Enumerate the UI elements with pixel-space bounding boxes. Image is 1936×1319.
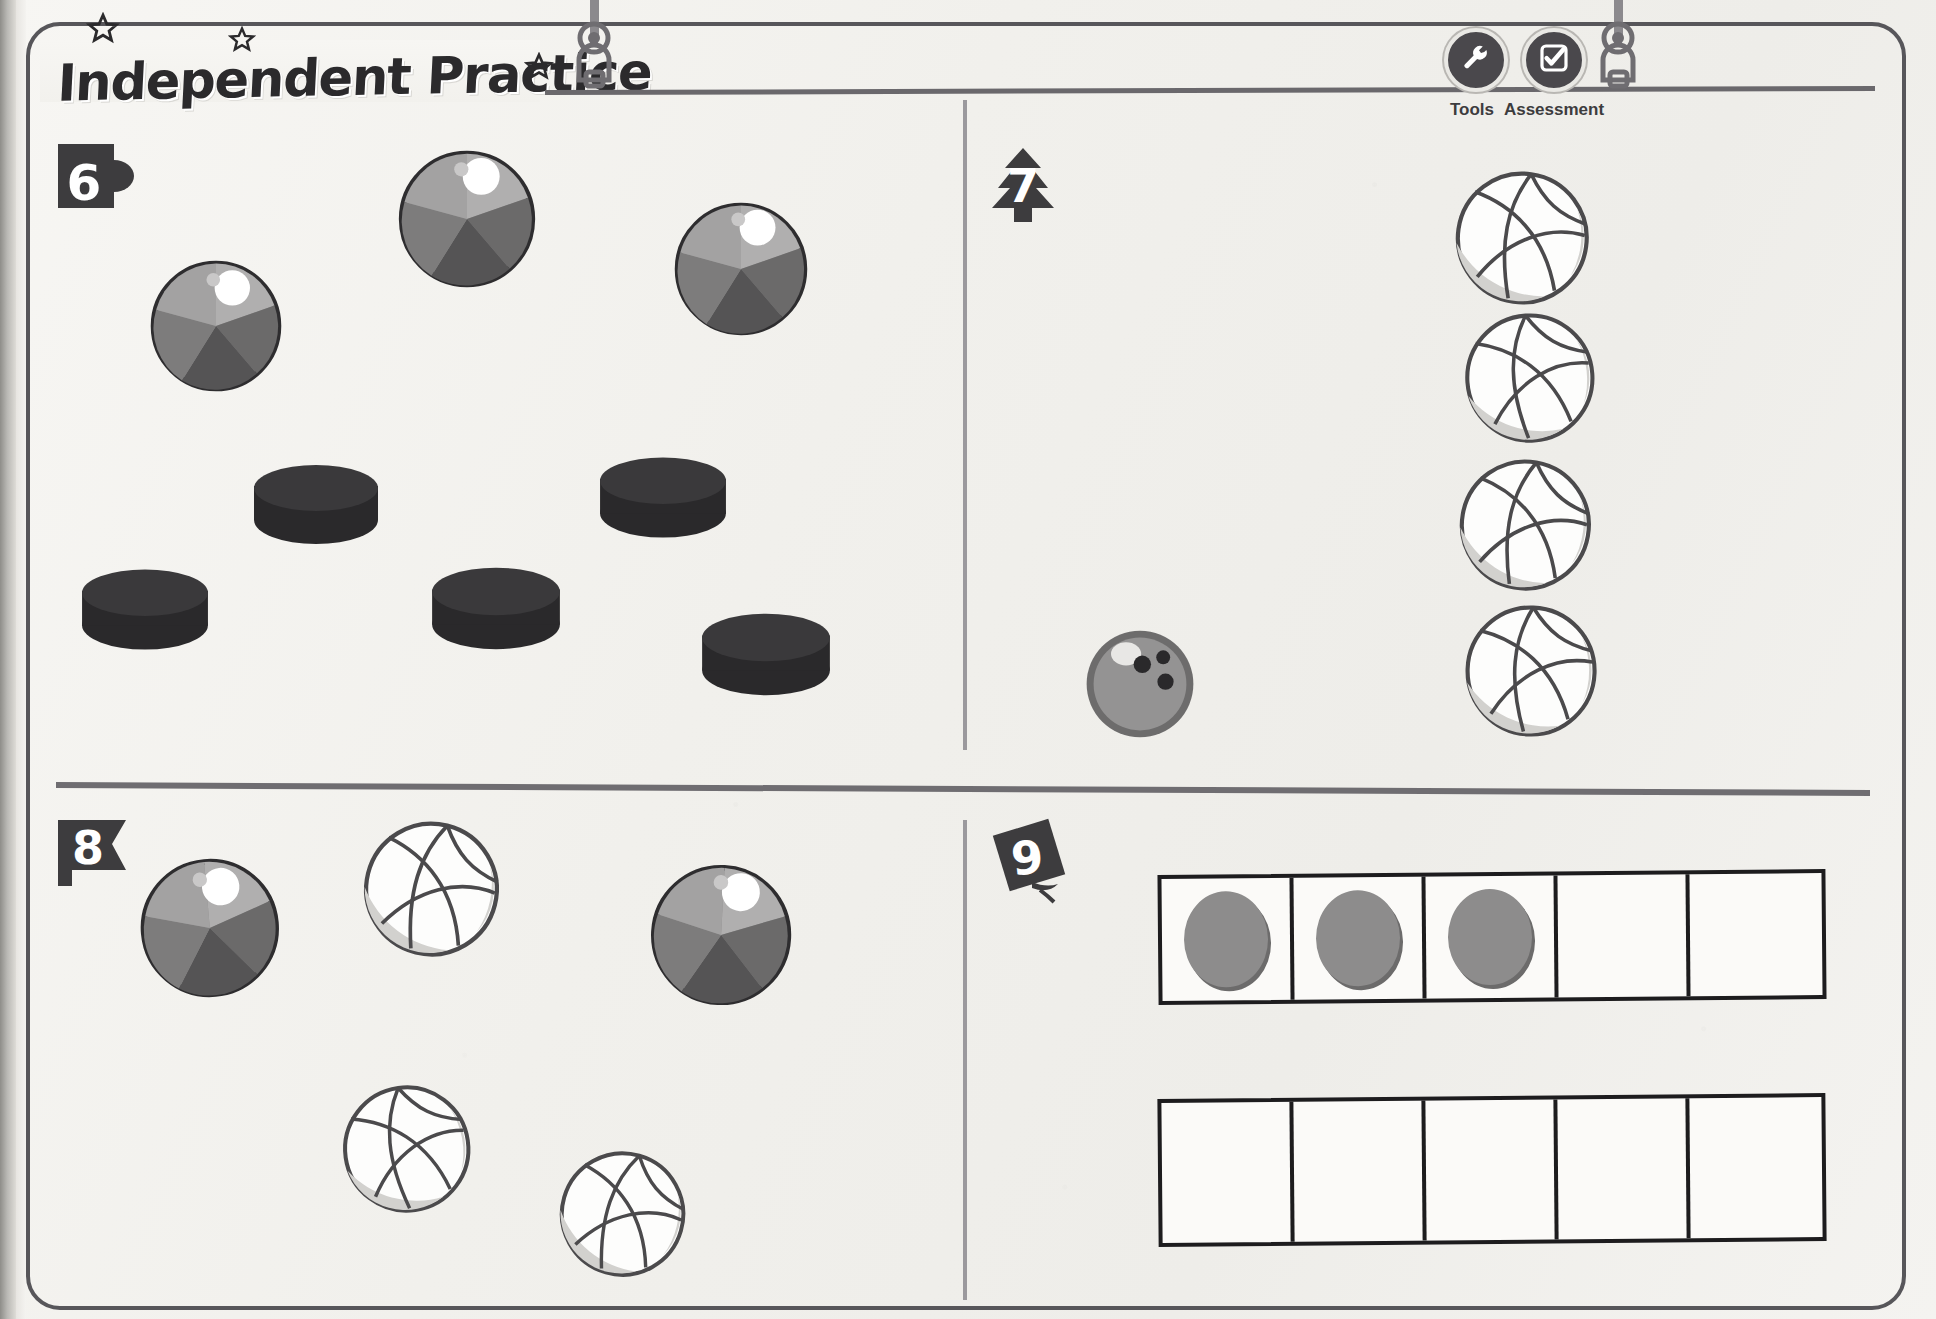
- assessment-button[interactable]: [1522, 28, 1586, 92]
- volleyball-icon: [331, 1073, 483, 1228]
- beach-ball-icon: [672, 200, 810, 342]
- vertical-divider-top: [963, 100, 967, 750]
- beach-ball-icon: [396, 148, 538, 294]
- tools-button[interactable]: [1444, 28, 1508, 92]
- five-frame-cell[interactable]: [1557, 874, 1690, 997]
- volleyball-icon: [1460, 600, 1603, 747]
- assessment-label: Assessment: [1484, 100, 1624, 120]
- beach-ball-icon: [644, 858, 798, 1015]
- five-frame-cell[interactable]: [1425, 875, 1558, 998]
- beach-ball-icon: [132, 850, 288, 1010]
- volleyball-icon: [1445, 445, 1606, 609]
- hockey-puck-icon: [78, 566, 212, 658]
- five-frame-top[interactable]: [1157, 869, 1826, 1005]
- volleyball-icon: [1443, 159, 1602, 321]
- star-icon-3: [524, 52, 554, 82]
- five-frame-cell[interactable]: [1161, 1102, 1294, 1243]
- page-title: Independent Practice: [56, 42, 653, 112]
- five-frame-cell[interactable]: [1161, 878, 1294, 1001]
- problem-7-badge: 7 7: [978, 146, 1068, 234]
- hockey-puck-icon: [428, 564, 564, 658]
- svg-text:7: 7: [1007, 159, 1039, 213]
- hockey-puck-icon: [698, 610, 834, 704]
- hockey-puck-icon: [250, 462, 382, 552]
- five-frame-cell[interactable]: [1557, 1098, 1690, 1239]
- five-frame-bottom[interactable]: [1157, 1093, 1826, 1247]
- worksheet-page: Independent Practice: [0, 0, 1936, 1319]
- beach-ball-icon: [148, 258, 284, 398]
- volleyball-icon: [1457, 305, 1602, 454]
- svg-text:6: 6: [67, 154, 102, 212]
- hockey-puck-icon: [596, 454, 730, 546]
- counter-chip: [1184, 891, 1269, 988]
- page-gutter-fade: [16, 0, 26, 1319]
- svg-text:9: 9: [1009, 830, 1046, 887]
- problem-9-badge: 9 9: [984, 812, 1084, 912]
- hanger-clip-right-icon: [1590, 0, 1646, 104]
- bowling-ball-icon: [1082, 626, 1198, 746]
- checkbox-check-icon: [1538, 42, 1570, 78]
- counter-chip: [1448, 889, 1533, 986]
- star-icon-1: [86, 12, 120, 46]
- five-frame-cell[interactable]: [1689, 1097, 1822, 1238]
- five-frame-cell[interactable]: [1293, 877, 1426, 1000]
- wrench-icon: [1461, 43, 1491, 77]
- star-icon-2: [228, 26, 256, 54]
- page-gutter-shadow: [0, 0, 16, 1319]
- problem-8-badge: 8 8: [54, 812, 144, 898]
- five-frame-cell[interactable]: [1689, 873, 1822, 996]
- five-frame-cell[interactable]: [1293, 1101, 1426, 1242]
- counter-chip: [1316, 890, 1401, 987]
- hanger-clip-left-icon: [566, 0, 622, 104]
- problem-6-badge: 6 6: [56, 142, 142, 224]
- svg-text:8: 8: [72, 821, 104, 875]
- vertical-divider-bottom: [963, 820, 967, 1300]
- five-frame-cell[interactable]: [1425, 1099, 1558, 1240]
